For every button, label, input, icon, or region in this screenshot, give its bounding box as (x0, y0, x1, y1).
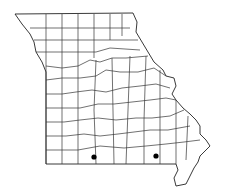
missouri-county-map (0, 0, 229, 196)
occurrence-marker (153, 153, 158, 158)
occurrence-marker (91, 154, 96, 159)
